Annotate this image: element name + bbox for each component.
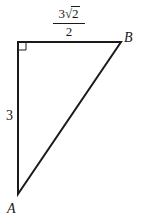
fraction-denominator: 2: [52, 25, 86, 38]
vertex-b-label: B: [124, 31, 133, 45]
vertex-a-label: A: [7, 202, 16, 216]
fraction-numerator: 3√2: [52, 6, 86, 21]
triangle-abc: [18, 42, 121, 194]
side-cb-length-label: 3√2 2: [52, 6, 86, 38]
right-angle-marker: [18, 42, 26, 50]
side-ac-length-label: 3: [6, 109, 13, 123]
triangle-figure: 3√2 2 B 3 A: [0, 0, 147, 224]
